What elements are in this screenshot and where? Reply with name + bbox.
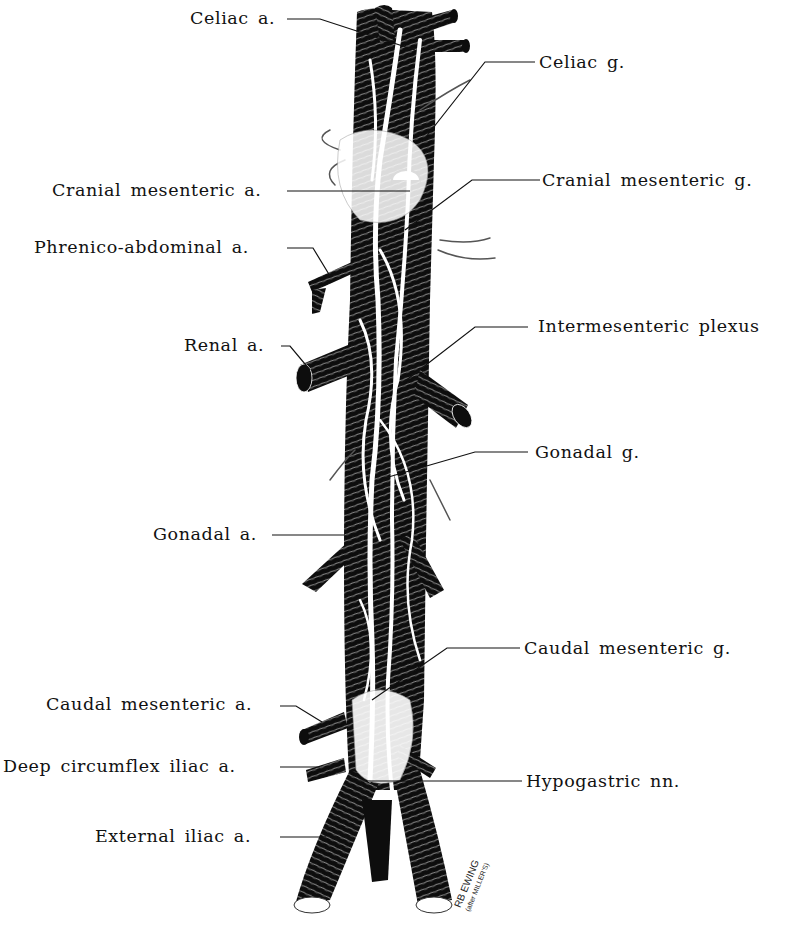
- label-phrenico-abdominal-a: Phrenico-abdominal a.: [34, 237, 249, 257]
- label-caudal-mesenteric-a: Caudal mesenteric a.: [46, 694, 252, 714]
- label-gonadal-g: Gonadal g.: [535, 442, 640, 462]
- label-celiac-g: Celiac g.: [539, 52, 625, 72]
- label-caudal-mesenteric-g: Caudal mesenteric g.: [524, 638, 731, 658]
- leader-caudal-mesenteric-a: [280, 706, 322, 722]
- label-hypogastric-nn: Hypogastric nn.: [526, 771, 680, 791]
- label-external-iliac-a: External iliac a.: [95, 826, 251, 846]
- label-renal-a: Renal a.: [184, 335, 264, 355]
- label-cranial-mesenteric-g: Cranial mesenteric g.: [542, 170, 752, 190]
- anatomy-figure: Celiac a. Cranial mesenteric a. Phrenico…: [0, 0, 799, 944]
- label-gonadal-a: Gonadal a.: [153, 524, 257, 544]
- label-intermesenteric-plexus: Intermesenteric plexus: [538, 316, 760, 336]
- label-deep-circumflex-iliac-a: Deep circumflex iliac a.: [3, 756, 236, 776]
- leader-phrenico-abdominal-a: [287, 248, 330, 276]
- iliac-bifurcation: [294, 770, 452, 913]
- label-cranial-mesenteric-a: Cranial mesenteric a.: [52, 180, 262, 200]
- phrenico-abdominal-artery: [308, 262, 356, 314]
- label-celiac-a: Celiac a.: [190, 8, 275, 28]
- aorta-illustration: [0, 0, 799, 944]
- leader-celiac-g: [422, 62, 535, 142]
